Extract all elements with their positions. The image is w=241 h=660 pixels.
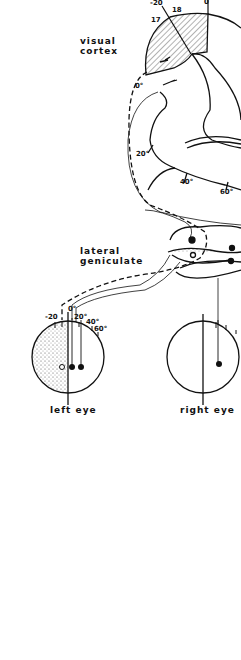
lateral-geniculate-label-line2: geniculate bbox=[80, 256, 143, 266]
lateral-geniculate-nucleus bbox=[168, 226, 241, 278]
eye-tick-sixty: 60° bbox=[94, 325, 107, 333]
cortex-tick-area17: 17 bbox=[151, 16, 161, 24]
dashed-pathway bbox=[62, 72, 207, 320]
cortex-tick-zero-left: 0° bbox=[135, 82, 143, 90]
visual-cortex-label: visual cortex bbox=[80, 36, 118, 56]
cortex-tick-forty: 40° bbox=[180, 178, 193, 186]
cortex-tick-twenty: 20° bbox=[136, 150, 149, 158]
visual-cortex-label-line1: visual bbox=[80, 36, 118, 46]
cortex-tick-area18: 18 bbox=[172, 6, 182, 14]
eye-tick-minus20: -20 bbox=[45, 313, 58, 321]
cortex-tick-zero-top: 0 bbox=[204, 0, 209, 6]
lateral-geniculate-label-line1: lateral bbox=[80, 246, 143, 256]
visual-cortex-label-line2: cortex bbox=[80, 46, 118, 56]
lateral-geniculate-label: lateral geniculate bbox=[80, 246, 143, 266]
right-eye bbox=[167, 314, 239, 405]
cortex-tick-minus20: -20 bbox=[150, 0, 163, 7]
right-eye-label: right eye bbox=[180, 405, 235, 415]
left-eye-label: left eye bbox=[50, 405, 97, 415]
visual-pathway-diagram bbox=[0, 0, 241, 660]
cortex-tick-sixty: 60° bbox=[220, 188, 233, 196]
eye-tick-zero: 0° bbox=[68, 305, 76, 313]
